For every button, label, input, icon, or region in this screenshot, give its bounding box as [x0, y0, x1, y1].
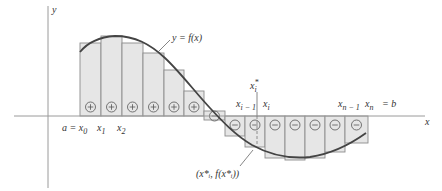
sample-point-label: x*i — [249, 78, 258, 94]
y-axis-label: y — [51, 4, 57, 15]
rectangle-negative — [285, 116, 305, 160]
xn-equals-b: = b — [382, 98, 396, 109]
tick-label: x1 — [96, 122, 105, 136]
rectangles-group — [80, 36, 368, 160]
sample-point-coordinate-label: (x*ᵢ, f(x*ᵢ)) — [196, 168, 240, 180]
riemann-sum-figure: y = f(x) y x a = x0x1x2xi − 1xixn − 1xn … — [0, 0, 442, 191]
point-label-leader — [240, 150, 253, 166]
rectangle-positive — [122, 43, 143, 116]
x-axis-label: x — [424, 116, 430, 127]
curve-label: y = f(x) — [171, 32, 203, 44]
tick-label: xn — [364, 98, 373, 112]
riemann-sum-diagram: y = f(x) y x a = x0x1x2xi − 1xixn − 1xn … — [0, 0, 442, 191]
rectangle-positive — [184, 91, 204, 116]
tick-label: xn − 1 — [337, 98, 360, 112]
rectangle-positive — [101, 36, 122, 116]
curve-label-leader — [158, 40, 170, 52]
tick-label: xi − 1 — [235, 98, 256, 112]
rectangle-positive — [80, 43, 101, 116]
tick-label: xi — [262, 98, 270, 112]
rectangle-negative — [305, 116, 325, 158]
rectangle-positive — [143, 53, 164, 116]
rectangle-positive — [164, 70, 184, 116]
tick-label: x2 — [116, 122, 125, 136]
tick-label: a = x0 — [62, 122, 87, 136]
